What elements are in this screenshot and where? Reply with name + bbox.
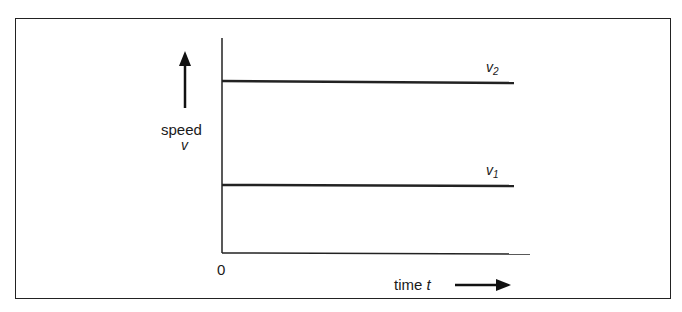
v2-label: v2: [486, 60, 499, 77]
v1-label: v1: [486, 163, 499, 180]
right-arrow-icon: [455, 279, 511, 291]
speed-time-graph: [0, 0, 682, 312]
y-axis-label: speed: [161, 122, 202, 137]
up-arrow-icon: [179, 51, 191, 108]
x-axis-label: time t: [394, 277, 431, 292]
v2-line: [222, 81, 514, 83]
y-axis-symbol: v: [181, 138, 188, 152]
x-axis: [222, 253, 530, 254]
v1-line: [222, 185, 514, 186]
origin-label: 0: [217, 262, 225, 277]
